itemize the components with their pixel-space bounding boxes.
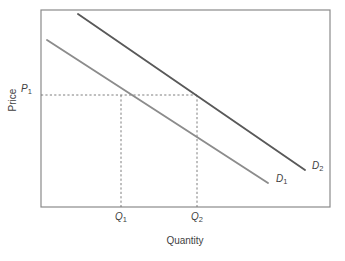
price-1-subscript: 1 [28,87,32,96]
quantity-2-subscript: 2 [199,215,203,224]
y-axis-title: Price [8,78,18,122]
chart-canvas [0,0,345,261]
curve-label-d1: D1 [276,174,287,184]
quantity-1-tick-label: Q1 [115,212,127,222]
price-1-tick-label: P1 [21,84,32,94]
x-axis-title: Quantity [140,236,230,246]
demand-shift-chart: Price Quantity P1 Q1 Q2 D1 D2 [0,0,345,261]
curve-d2-subscript: 2 [319,164,323,173]
quantity-2-tick-label: Q2 [191,212,203,222]
price-1-base: P [21,83,28,94]
curve-label-d2: D2 [312,161,323,171]
quantity-2-base: Q [191,211,199,222]
quantity-1-base: Q [115,211,123,222]
quantity-1-subscript: 1 [123,215,127,224]
curve-d1-subscript: 1 [283,177,287,186]
